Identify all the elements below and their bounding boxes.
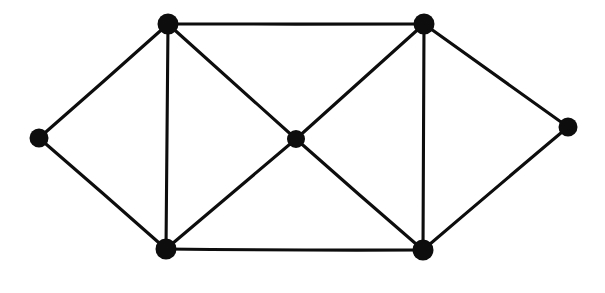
graph-vertex-top-right bbox=[414, 14, 435, 35]
graph-edge-top-right-to-bottom-right bbox=[423, 24, 424, 250]
graph-diagram bbox=[0, 0, 605, 293]
graph-edge-top-left-to-bottom-left bbox=[166, 24, 168, 249]
graph-vertex-left bbox=[30, 129, 49, 148]
graph-vertex-bottom-right bbox=[413, 240, 434, 261]
graph-canvas bbox=[0, 0, 605, 293]
graph-vertex-top-left bbox=[158, 14, 179, 35]
graph-vertex-bottom-left bbox=[156, 239, 177, 260]
graph-vertex-right bbox=[559, 118, 578, 137]
graph-vertex-center bbox=[287, 130, 305, 148]
graph-edge-bottom-left-to-bottom-right bbox=[166, 249, 423, 250]
